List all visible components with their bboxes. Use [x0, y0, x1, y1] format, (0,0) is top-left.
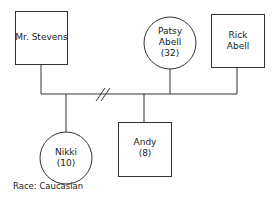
label-line: (8)	[118, 148, 172, 159]
label-line: Rick	[211, 30, 265, 41]
label-line: Andy	[118, 137, 172, 148]
label-line: Mr. Stevens	[15, 32, 68, 43]
mr-stevens-label: Mr. Stevens	[15, 32, 68, 43]
patsy-abell-label: Patsy Abell (32)	[144, 26, 196, 59]
label-line: (32)	[144, 48, 196, 59]
andy-label: Andy (8)	[118, 137, 172, 159]
race-footnote: Race: Caucasian	[13, 181, 83, 191]
label-line: Patsy	[144, 26, 196, 37]
rick-abell-label: Rick Abell	[211, 30, 265, 52]
label-line: Abell	[211, 41, 265, 52]
label-line: Abell	[144, 37, 196, 48]
label-line: Nikki	[40, 147, 92, 158]
label-line: (10)	[40, 158, 92, 169]
nikki-label: Nikki (10)	[40, 147, 92, 169]
